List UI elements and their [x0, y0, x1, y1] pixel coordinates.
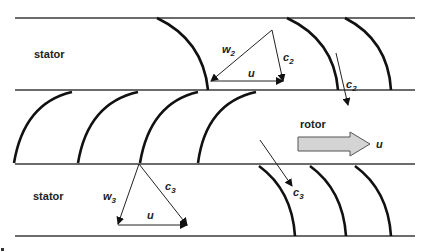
rotor-direction-arrow	[298, 132, 370, 156]
casing-lines	[15, 18, 415, 236]
stator-top-label: stator	[34, 48, 65, 60]
u-top-label: u	[248, 67, 255, 79]
stator-bottom-label: stator	[33, 190, 64, 202]
stator-blade	[259, 166, 295, 236]
c3-flow-label: c3	[293, 186, 304, 201]
stator-blade	[157, 18, 208, 90]
rotor-blade	[14, 92, 72, 163]
c3-triangle-label: c3	[165, 180, 176, 195]
stator-bottom-blades	[259, 166, 391, 236]
rotor-blades	[14, 92, 256, 163]
rotor-u-label: u	[376, 138, 383, 150]
velocity-triangle-top	[211, 30, 283, 81]
stator-blade	[355, 166, 391, 236]
w3-vector	[118, 164, 139, 224]
c2-flow-label: c2	[346, 78, 357, 93]
stator-top-blades	[157, 18, 391, 90]
u-bottom-label: u	[147, 209, 154, 221]
corner-mark	[1, 248, 4, 251]
turbine-stage-diagram: w2 c2 u c2 rotor u c3 w3 c3 u stator sta…	[0, 0, 425, 252]
w2-vector	[211, 30, 272, 81]
w2-label: w2	[222, 43, 236, 58]
c2-triangle-label: c2	[283, 51, 294, 66]
rotor-label: rotor	[300, 118, 326, 130]
rotor-blade	[198, 92, 256, 163]
rotor-blade	[78, 92, 138, 163]
c2-vector	[272, 30, 283, 81]
c3-flow-arrow	[260, 140, 292, 186]
w3-label: w3	[103, 190, 117, 205]
rotor-blade	[140, 92, 198, 163]
stator-blade	[287, 18, 338, 90]
stator-blade	[310, 166, 346, 236]
